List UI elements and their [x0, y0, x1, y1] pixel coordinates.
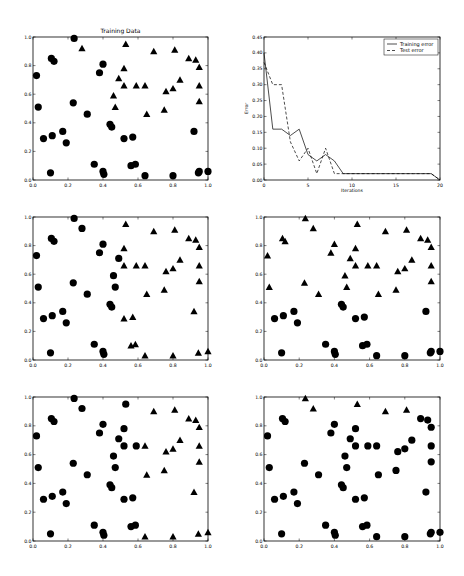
y-tick-label: 1.0 [24, 395, 31, 400]
circle-marker [132, 522, 139, 529]
circle-marker [141, 172, 148, 179]
y-tick-label: 0.2 [255, 329, 262, 334]
triangle-marker [428, 278, 435, 284]
scatter-middle-right: 0.00.20.40.60.81.00.00.20.40.60.81.0 [232, 196, 464, 380]
y-tick-label: 0.2 [255, 510, 262, 515]
triangle-marker [143, 471, 150, 477]
circle-marker [33, 432, 40, 439]
circle-marker [373, 352, 380, 359]
x-tick-label: 0.2 [64, 544, 71, 549]
circle-marker [33, 252, 40, 259]
triangle-marker [428, 262, 435, 268]
circle-marker [59, 488, 66, 495]
circle-marker [280, 493, 287, 500]
circle-marker [47, 169, 54, 176]
circle-marker [341, 452, 348, 459]
triangle-marker [169, 352, 176, 358]
x-tick-label: 0.8 [401, 363, 408, 368]
circle-marker [401, 445, 408, 452]
triangle-marker [196, 278, 203, 284]
triangle-marker [161, 286, 168, 292]
circle-marker [33, 72, 40, 79]
y-tick-label: 0.30 [252, 82, 262, 87]
y-tick-label: 0.6 [24, 92, 31, 97]
plot-frame [264, 397, 440, 541]
y-tick-label: 0.10 [252, 146, 262, 151]
triangle-marker [424, 236, 431, 242]
triangle-marker [195, 530, 202, 536]
y-tick-label: 0.0 [24, 539, 31, 544]
triangle-marker [162, 88, 169, 94]
circle-marker [84, 291, 91, 298]
circle-marker [352, 425, 359, 432]
triangle-marker [192, 236, 199, 242]
triangle-marker [185, 415, 192, 421]
circle-marker [266, 464, 273, 471]
triangle-marker [364, 262, 371, 268]
circle-marker [422, 308, 429, 315]
x-tick-label: 0.4 [331, 363, 338, 368]
triangle-marker [169, 533, 176, 539]
triangle-marker [352, 245, 359, 251]
scatter-bottom-left: 0.00.20.40.60.81.00.00.20.40.60.81.0 [0, 380, 232, 576]
circle-marker [315, 471, 322, 478]
y-tick-label: 0.6 [24, 452, 31, 457]
triangle-marker [190, 308, 197, 314]
circle-marker [294, 500, 301, 507]
circle-marker [301, 460, 308, 467]
circle-marker [120, 135, 127, 142]
x-tick-label: 0 [263, 183, 266, 188]
x-tick-label: 0.0 [29, 544, 36, 549]
triangle-marker [120, 315, 127, 321]
x-tick-label: 0.6 [366, 363, 373, 368]
circle-marker [332, 532, 339, 539]
triangle-marker [133, 262, 140, 268]
y-tick-label: 0.40 [252, 50, 262, 55]
triangle-marker [354, 401, 361, 407]
triangle-marker [196, 243, 203, 249]
y-tick-label: 0.2 [24, 149, 31, 154]
triangle-marker [133, 82, 140, 88]
circle-marker [70, 460, 77, 467]
x-tick-label: 0.2 [64, 363, 71, 368]
circle-marker [59, 308, 66, 315]
triangle-marker [373, 262, 380, 268]
x-tick-label: 0.0 [29, 363, 36, 368]
circle-marker [71, 35, 78, 42]
y-tick-label: 1.0 [255, 215, 262, 220]
scatter-training-data: 0.00.20.40.60.81.00.00.20.40.60.81.0Trai… [0, 0, 232, 196]
y-tick-label: 0.6 [255, 452, 262, 457]
triangle-marker [141, 262, 148, 268]
circle-marker [428, 458, 435, 465]
y-tick-label: 0.0 [24, 358, 31, 363]
x-tick-label: 5 [307, 183, 310, 188]
circle-marker [271, 315, 278, 322]
scatter-middle-left: 0.00.20.40.60.81.00.00.20.40.60.81.0 [0, 196, 232, 380]
circle-marker [332, 351, 339, 358]
circle-marker [49, 312, 56, 319]
circle-marker [99, 241, 106, 248]
legend-label: Test error [399, 47, 424, 53]
triangle-marker [382, 408, 389, 414]
x-tick-label: 1.0 [204, 363, 211, 368]
circle-marker [78, 225, 85, 232]
triangle-marker [392, 286, 399, 292]
triangle-marker [403, 406, 410, 412]
circle-marker [59, 128, 66, 135]
circle-marker [84, 111, 91, 118]
triangle-marker [171, 226, 178, 232]
triangle-marker [141, 82, 148, 88]
circle-marker [49, 493, 56, 500]
circle-marker [129, 134, 136, 141]
triangle-marker [176, 437, 183, 443]
circle-marker [120, 496, 127, 503]
circle-marker [96, 429, 103, 436]
circle-marker [91, 341, 98, 348]
circle-marker [40, 315, 47, 322]
x-tick-label: 0.8 [169, 363, 176, 368]
circle-marker [100, 532, 107, 539]
y-tick-label: 0.2 [24, 510, 31, 515]
triangle-marker [196, 442, 203, 448]
triangle-marker [302, 215, 309, 221]
x-tick-label: 1.0 [204, 183, 211, 188]
